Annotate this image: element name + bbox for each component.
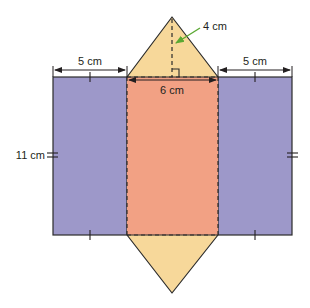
right-side-face (218, 77, 292, 235)
center-face (127, 77, 218, 235)
center-width-label: 6 cm (160, 84, 184, 96)
left-width-label: 5 cm (78, 55, 102, 67)
prism-net-diagram: 4 cm 5 cm 5 cm 6 cm 11 cm (0, 0, 310, 308)
bottom-triangle-face (127, 235, 218, 293)
length-label: 11 cm (16, 149, 45, 161)
right-width-label: 5 cm (243, 55, 267, 67)
left-side-face (53, 77, 127, 235)
triangle-height-label: 4 cm (203, 20, 227, 32)
